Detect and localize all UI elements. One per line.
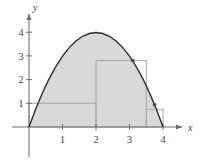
curve-point-2 xyxy=(153,103,157,107)
y-tick-label-3: 3 xyxy=(18,50,24,62)
x-tick-label-4: 4 xyxy=(160,133,166,145)
y-axis-arrow xyxy=(26,14,31,20)
y-tick-label-1: 1 xyxy=(18,97,24,109)
x-tick-label-1: 1 xyxy=(60,133,66,145)
y-axis-label: y xyxy=(32,2,38,13)
y-tick-label-2: 2 xyxy=(18,73,24,85)
x-axis-label: x xyxy=(187,122,193,133)
y-tick-label-4: 4 xyxy=(18,26,24,38)
parabola-area-chart: 1 2 3 4 1 2 3 4 y x xyxy=(0,0,205,164)
x-axis-arrow xyxy=(176,124,182,129)
x-tick-label-3: 3 xyxy=(127,133,133,145)
x-tick-label-2: 2 xyxy=(93,133,99,145)
curve-point-1 xyxy=(131,59,135,63)
figure-container: 1 2 3 4 1 2 3 4 y x xyxy=(0,0,205,164)
